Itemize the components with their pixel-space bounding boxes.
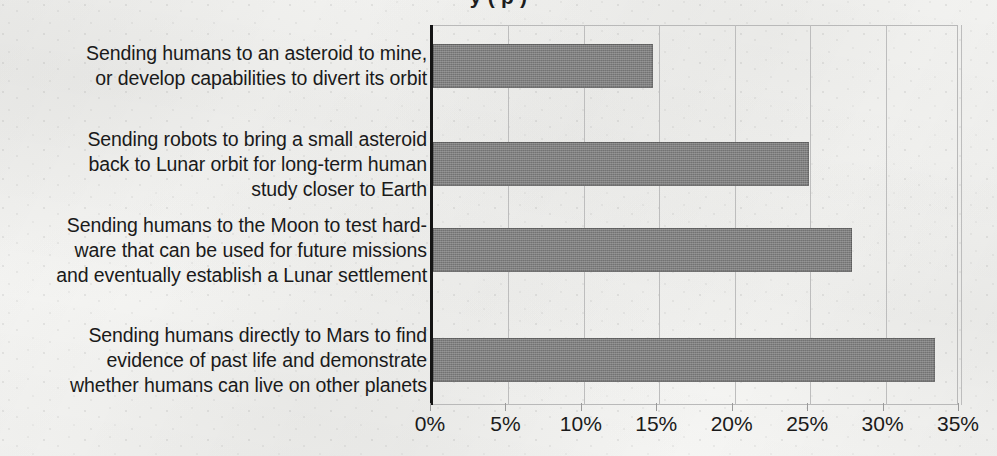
category-label-line: Sending humans to the Moon to test hard- xyxy=(27,213,427,238)
category-label-line: evidence of past life and demonstrate xyxy=(27,348,427,373)
category-label-line: whether humans can live on other planets xyxy=(27,373,427,398)
category-label-4: Sending humans directly to Mars to finde… xyxy=(27,323,427,398)
x-tick-label: 10% xyxy=(560,412,602,436)
category-label-line: ware that can be used for future mission… xyxy=(27,238,427,263)
category-label-3: Sending humans to the Moon to test hard-… xyxy=(27,213,427,288)
category-label-1: Sending humans to an asteroid to mine,or… xyxy=(27,41,427,91)
category-label-line: Sending humans to an asteroid to mine, xyxy=(27,41,427,66)
x-tick-label: 20% xyxy=(711,412,753,436)
x-tick-mark xyxy=(581,403,582,411)
x-tick-label: 30% xyxy=(862,412,904,436)
category-label-line: or develop capabilities to divert its or… xyxy=(27,66,427,91)
x-tick-mark xyxy=(958,403,959,411)
bar-2 xyxy=(433,142,809,186)
category-label-line: Sending humans directly to Mars to find xyxy=(27,323,427,348)
x-tick-label: 5% xyxy=(490,412,520,436)
x-tick-label: 35% xyxy=(937,412,979,436)
category-label-line: study closer to Earth xyxy=(27,177,427,202)
x-tick-label: 25% xyxy=(786,412,828,436)
bar-1 xyxy=(433,44,653,88)
page-title: y ( p ) xyxy=(0,0,997,9)
category-label-2: Sending robots to bring a small asteroid… xyxy=(27,127,427,202)
plot-area xyxy=(430,25,958,405)
x-tick-mark xyxy=(505,403,506,411)
x-tick-mark xyxy=(430,403,431,411)
category-label-line: back to Lunar orbit for long-term human xyxy=(27,152,427,177)
x-tick-mark xyxy=(732,403,733,411)
gridline xyxy=(961,25,962,405)
x-tick-mark xyxy=(883,403,884,411)
x-tick-label: 0% xyxy=(415,412,445,436)
x-tick-mark xyxy=(656,403,657,411)
x-axis: 0%5%10%15%20%25%30%35% xyxy=(430,412,990,444)
x-tick-mark xyxy=(807,403,808,411)
bar-4 xyxy=(433,338,935,382)
x-tick-label: 15% xyxy=(635,412,677,436)
category-label-line: and eventually establish a Lunar settlem… xyxy=(27,263,427,288)
scanned-chart-page: y ( p ) Sending humans to an asteroid to… xyxy=(0,0,997,456)
bar-3 xyxy=(433,228,852,272)
category-label-line: Sending robots to bring a small asteroid xyxy=(27,127,427,152)
